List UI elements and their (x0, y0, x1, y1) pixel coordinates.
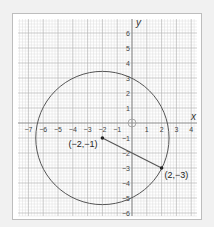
x-tick-label: 1 (145, 126, 149, 133)
x-tick-label: 4 (189, 126, 193, 133)
x-tick-label: −7 (24, 126, 32, 133)
point-marker (101, 136, 105, 140)
y-tick-label: 4 (126, 60, 130, 67)
y-tick-label: 1 (126, 105, 130, 112)
y-tick-label: 5 (126, 45, 130, 52)
center-point-label: (−2,−1) (68, 139, 97, 149)
x-tick-label: −4 (69, 126, 77, 133)
y-tick-label: −6 (122, 210, 130, 217)
y-tick-label: −1 (122, 135, 130, 142)
x-tick-label: −6 (39, 126, 47, 133)
x-tick-label: −3 (84, 126, 92, 133)
y-tick-label: −4 (122, 180, 130, 187)
y-tick-label: 6 (126, 30, 130, 37)
x-tick-label: −5 (54, 126, 62, 133)
x-axis-label: x (190, 111, 197, 122)
x-tick-label: −1 (113, 126, 121, 133)
y-tick-label: 2 (126, 90, 130, 97)
x-tick-label: 2 (160, 126, 164, 133)
coordinate-plane: −7−6−5−4−3−2−11234−6−5−4−3−2−1123456 x y… (0, 0, 214, 227)
point-marker (160, 166, 164, 170)
axes (18, 19, 197, 216)
y-axis-label: y (135, 17, 142, 28)
x-tick-label: −2 (98, 126, 106, 133)
major-grid (18, 19, 197, 216)
minor-grid (18, 19, 197, 216)
edge-point-label: (2,−3) (165, 170, 189, 180)
x-tick-label: 3 (174, 126, 178, 133)
y-tick-label: −3 (122, 165, 130, 172)
